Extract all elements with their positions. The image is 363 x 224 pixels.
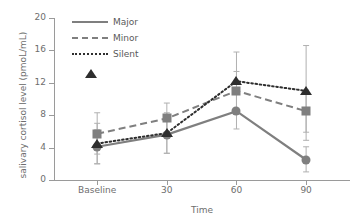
legend-key-silent-icon [72, 47, 108, 61]
data-point-silent [91, 139, 103, 148]
series-line-major [97, 111, 306, 160]
cortisol-line-chart: 048121620 Baseline306090 salivary cortis… [0, 0, 363, 224]
legend-key-minor-icon [72, 31, 108, 45]
data-point-major [302, 155, 311, 164]
legend-label-silent: Silent [113, 49, 138, 59]
data-point-silent [300, 86, 312, 95]
legend-key-major-icon [72, 15, 108, 29]
data-point-major [232, 107, 241, 116]
legend-item-minor: Minor [72, 30, 138, 46]
data-point-minor [93, 129, 102, 138]
legend-label-major: Major [113, 17, 138, 27]
series-line-minor [97, 91, 306, 134]
data-point-silent [161, 128, 173, 137]
legend-item-silent: Silent [72, 46, 138, 62]
series-line-silent [97, 81, 306, 143]
legend-label-minor: Minor [113, 33, 138, 43]
data-point-minor [302, 107, 311, 116]
legend: Major Minor Silent [72, 14, 138, 62]
data-point-silent [230, 76, 242, 85]
data-point-minor [232, 86, 241, 95]
legend-item-major: Major [72, 14, 138, 30]
data-point-minor [162, 114, 171, 123]
